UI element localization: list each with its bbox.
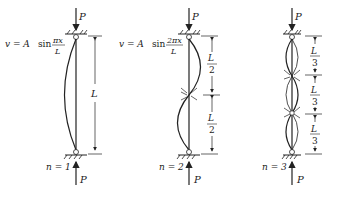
mode-label-3: n = 3 <box>262 162 287 172</box>
column-mode-2 <box>177 8 220 185</box>
mode-label-2: n = 2 <box>159 162 184 172</box>
svg-text:sin: sin <box>152 39 165 49</box>
load-label-top-2: P <box>191 11 199 22</box>
dimension-label-2a-num: L <box>207 53 214 63</box>
svg-text:L: L <box>170 47 176 56</box>
load-label-bottom-1: P <box>79 174 87 185</box>
dimension-label-3c-den: 3 <box>312 136 318 146</box>
dimension-label-3a-den: 3 <box>312 58 318 68</box>
svg-text:2πx: 2πx <box>166 36 182 45</box>
mode-label-1: n = 1 <box>46 162 71 172</box>
equation-2: v = A sin 2πx L <box>119 36 183 56</box>
load-label-bottom-3: P <box>296 174 304 185</box>
buckling-modes-diagram: P P L n = 1 v = A sin πx L <box>0 0 347 197</box>
dimension-label-3c-num: L <box>310 124 317 134</box>
dimension-label-2b-num: L <box>207 113 214 123</box>
dimension-label-3b-den: 3 <box>312 97 318 107</box>
svg-text:v = A: v = A <box>119 39 144 49</box>
load-label-top-3: P <box>294 11 302 22</box>
load-label-top-1: P <box>78 11 86 22</box>
dimension-label-2b-den: 2 <box>209 125 215 135</box>
svg-text:πx: πx <box>52 36 63 45</box>
load-label-bottom-2: P <box>193 174 201 185</box>
dimension-label-2a-den: 2 <box>209 65 215 75</box>
svg-text:L: L <box>54 47 60 56</box>
dimension-label-1: L <box>90 88 98 99</box>
svg-text:v = A: v = A <box>5 39 30 49</box>
equation-1: v = A sin πx L <box>5 36 65 56</box>
svg-text:sin: sin <box>38 39 51 49</box>
dimension-label-3b-num: L <box>310 85 317 95</box>
dimension-label-3a-num: L <box>310 46 317 56</box>
